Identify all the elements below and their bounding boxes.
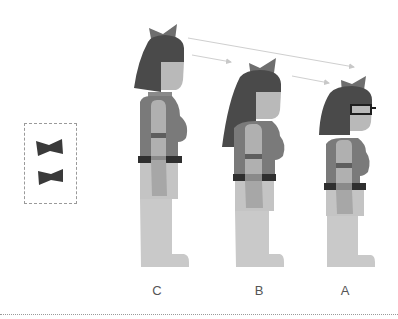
- legend-box: [24, 123, 77, 204]
- character-a: [319, 76, 376, 267]
- legs: [235, 211, 284, 267]
- arrow-c-to-b: [192, 55, 231, 62]
- label-b: B: [249, 283, 269, 298]
- face: [161, 62, 184, 90]
- legs: [327, 216, 375, 267]
- divider-line: [0, 314, 398, 315]
- face: [350, 106, 372, 131]
- face: [256, 92, 281, 119]
- diagram-canvas: C B A: [0, 0, 398, 319]
- character-c: [134, 24, 189, 267]
- arrow-b-to-a: [292, 76, 329, 83]
- legs: [140, 199, 189, 267]
- bow-tie-icon: [38, 169, 63, 185]
- bow-tie-icon: [36, 139, 63, 156]
- character-b: [222, 58, 284, 267]
- label-c: C: [147, 283, 167, 298]
- label-a: A: [335, 283, 355, 298]
